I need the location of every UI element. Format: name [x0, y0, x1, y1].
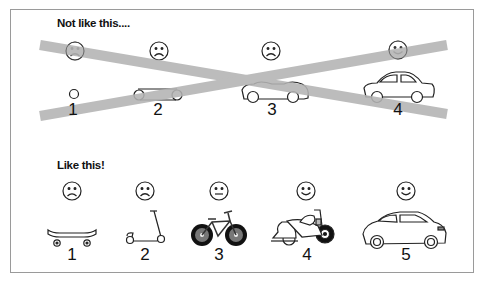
- happy-face-icon: [397, 182, 415, 200]
- car-icon: [363, 212, 446, 249]
- bottom-item-number: 4: [297, 245, 317, 265]
- bottom-item-number: 2: [135, 245, 155, 265]
- happy-face-icon: [297, 182, 315, 200]
- sad-face-icon: [136, 182, 154, 200]
- bottom-item-number: 3: [209, 245, 229, 265]
- bottom-item-number: 1: [62, 245, 82, 265]
- bottom-item-number: 5: [396, 245, 416, 265]
- bicycle-icon: [191, 211, 247, 246]
- skateboard-icon: [48, 230, 96, 246]
- scooter-icon: [127, 211, 165, 244]
- bottom-section-graphics: [0, 0, 485, 281]
- sad-face-icon: [63, 182, 81, 200]
- motorcycle-icon: [271, 210, 334, 245]
- neutral-face-icon: [210, 182, 228, 200]
